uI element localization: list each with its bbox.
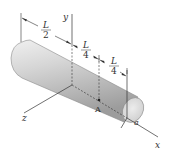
dim-label-l4-second: L 4 (109, 56, 119, 76)
arrow-icon (66, 41, 71, 45)
dim-l2-numerator: L (42, 20, 49, 30)
dim-l4-2-numerator: L (110, 56, 117, 66)
dim-label-l2: L 2 (41, 20, 51, 40)
arrow-icon (22, 18, 27, 22)
point-a-marker (98, 99, 101, 102)
dim-label-l4-first: L 4 (81, 40, 91, 60)
point-a-label: A (94, 105, 101, 114)
x-axis-label: x (155, 140, 160, 150)
dim-l4-1-denominator: 4 (83, 50, 89, 60)
cylinder (11, 40, 148, 126)
radius-label: a (134, 118, 139, 127)
y-axis-label: y (62, 12, 69, 22)
dim-l2-denominator: 2 (43, 30, 49, 40)
z-axis-label: z (21, 113, 27, 123)
x-axis (127, 118, 158, 137)
dim-l4-2-denominator: 4 (111, 66, 117, 76)
dim-l4-1-numerator: L (82, 40, 89, 50)
diagram-canvas: L 2 L 4 L 4 y z x A a (0, 0, 175, 156)
